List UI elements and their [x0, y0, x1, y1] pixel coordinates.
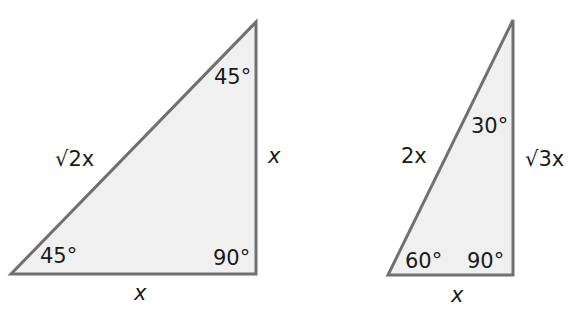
angle-right-label: 90°	[213, 246, 250, 270]
triangle-shape	[11, 22, 256, 274]
angle-top-label: 30°	[471, 114, 508, 138]
horizontal-leg-label: x	[450, 283, 464, 307]
hypotenuse-label: 2x	[401, 144, 427, 168]
horizontal-leg-label: x	[133, 281, 147, 305]
hypotenuse-label: √2x	[55, 147, 94, 171]
vertical-leg-label: √3x	[525, 147, 564, 171]
angle-bottom-left-label: 45°	[40, 244, 77, 268]
triangle-30-60-90: 30° 60° 90° 2x √3x x	[388, 20, 564, 307]
special-right-triangles-diagram: 45° 45° 90° √2x x x 30° 60° 90° 2x √3x x	[0, 0, 579, 327]
angle-bottom-left-label: 60°	[405, 249, 442, 273]
triangle-45-45-90: 45° 45° 90° √2x x x	[11, 22, 281, 305]
angle-top-label: 45°	[214, 65, 251, 89]
angle-right-label: 90°	[467, 249, 504, 273]
vertical-leg-label: x	[267, 144, 281, 168]
